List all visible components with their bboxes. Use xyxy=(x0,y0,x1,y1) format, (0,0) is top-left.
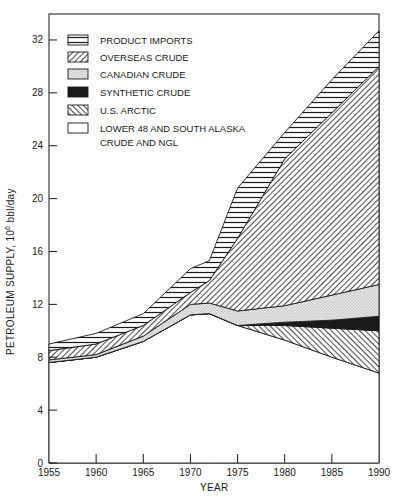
y-tick-label: 8 xyxy=(37,352,43,363)
petroleum-supply-chart: 048121620242832 195519601965197019751980… xyxy=(0,0,396,501)
legend-label: U.S. ARCTIC xyxy=(100,105,156,116)
y-tick-label: 4 xyxy=(37,405,43,416)
x-tick-label: 1980 xyxy=(274,467,297,478)
canadian-crude-swatch-icon xyxy=(68,69,88,79)
legend-item-lower-48: LOWER 48 AND SOUTH ALASKA CRUDE AND NGL xyxy=(68,123,246,148)
y-tick-label: 16 xyxy=(32,246,44,257)
y-tick-label: 32 xyxy=(32,34,44,45)
y-tick-label: 24 xyxy=(32,140,44,151)
lower-48-swatch-icon xyxy=(68,123,88,133)
legend-label-line2: CRUDE AND NGL xyxy=(100,137,178,148)
overseas-crude-swatch-icon xyxy=(68,52,88,62)
legend-item-us-arctic: U.S. ARCTIC xyxy=(68,105,156,116)
x-tick-label: 1960 xyxy=(85,467,108,478)
y-axis-title: PETROLEUM SUPPLY, 106 bbl/day xyxy=(4,188,16,355)
x-tick-label: 1990 xyxy=(368,467,391,478)
stacked-areas xyxy=(49,31,379,463)
y-tick-label: 28 xyxy=(32,87,44,98)
synthetic-crude-swatch-icon xyxy=(68,87,88,97)
legend-label: CANADIAN CRUDE xyxy=(100,69,186,80)
y-tick-label: 12 xyxy=(32,299,44,310)
x-tick-label: 1975 xyxy=(226,467,249,478)
legend-item-synthetic-crude: SYNTHETIC CRUDE xyxy=(68,87,190,98)
legend-item-overseas-crude: OVERSEAS CRUDE xyxy=(68,52,189,63)
product-imports-swatch-icon xyxy=(68,35,88,45)
x-axis-title: YEAR xyxy=(200,482,228,493)
legend-item-canadian-crude: CANADIAN CRUDE xyxy=(68,69,186,80)
legend-label: PRODUCT IMPORTS xyxy=(100,35,193,46)
legend-label: LOWER 48 AND SOUTH ALASKA xyxy=(100,123,246,134)
legend-item-product-imports: PRODUCT IMPORTS xyxy=(68,35,193,46)
us-arctic-swatch-icon xyxy=(68,105,88,115)
x-tick-label: 1970 xyxy=(179,467,202,478)
legend-label: OVERSEAS CRUDE xyxy=(100,52,189,63)
legend-label: SYNTHETIC CRUDE xyxy=(100,87,190,98)
legend: PRODUCT IMPORTS OVERSEAS CRUDE CANADIAN … xyxy=(68,35,246,148)
x-tick-label: 1965 xyxy=(132,467,155,478)
x-tick-label: 1955 xyxy=(38,467,61,478)
x-tick-label: 1985 xyxy=(321,467,344,478)
y-tick-label: 20 xyxy=(32,193,44,204)
